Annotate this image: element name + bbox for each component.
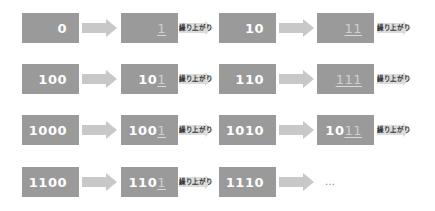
number-value: 110 [235, 72, 264, 87]
continuation-ellipsis: … [325, 167, 336, 197]
unchanged-digits: 10 [138, 72, 157, 87]
right-arrow-icon [279, 121, 314, 139]
right-arrow-icon [279, 70, 314, 88]
row-2: 100 101 繰り上がり 110 111 繰り上がり [0, 64, 435, 94]
number-box: 110 [219, 64, 276, 94]
carry-arrow: 繰り上がり [377, 21, 411, 35]
number-box: 1100 [22, 167, 79, 197]
carry-arrow: 繰り上がり [179, 175, 213, 189]
number-box-incremented: 101 [121, 64, 178, 94]
changed-digits: 11 [344, 21, 362, 36]
number-box-incremented: 1 [121, 13, 178, 43]
changed-digits: 1 [157, 21, 166, 36]
unchanged-digits: 110 [129, 175, 158, 190]
number-value: 100 [38, 72, 67, 87]
number-box: 1000 [22, 115, 79, 145]
changed-digits: 1 [157, 175, 166, 190]
number-box-incremented: 111 [317, 64, 374, 94]
right-arrow-icon [279, 173, 314, 191]
right-arrow-icon [82, 19, 117, 37]
carry-arrow: 繰り上がり [179, 72, 213, 86]
right-arrow-icon [82, 121, 117, 139]
carry-arrow: 繰り上がり [179, 21, 213, 35]
number-value: 1000 [29, 123, 67, 138]
number-value: 1010 [226, 123, 264, 138]
row-3: 1000 1001 繰り上がり 1010 1011 繰り上がり [0, 115, 435, 145]
number-box: 0 [22, 13, 79, 43]
carry-label: 繰り上がり [377, 21, 411, 35]
unchanged-digits: 10 [325, 123, 344, 138]
number-value: 1110 [226, 175, 264, 190]
carry-label: 繰り上がり [179, 72, 213, 86]
right-arrow-icon [279, 19, 314, 37]
carry-label: 繰り上がり [377, 72, 411, 86]
number-box: 10 [219, 13, 276, 43]
right-arrow-icon [82, 70, 117, 88]
number-value: 0 [57, 21, 67, 36]
number-box-incremented: 1001 [121, 115, 178, 145]
number-box-incremented: 1101 [121, 167, 178, 197]
number-value: 1100 [29, 175, 67, 190]
carry-label: 繰り上がり [179, 175, 213, 189]
changed-digits: 111 [336, 72, 362, 87]
carry-label: 繰り上がり [179, 21, 213, 35]
carry-label: 繰り上がり [179, 123, 213, 137]
carry-label: 繰り上がり [377, 123, 411, 137]
changed-digits: 1 [157, 72, 166, 87]
changed-digits: 11 [344, 123, 362, 138]
row-1: 0 1 繰り上がり 10 11 繰り上がり [0, 13, 435, 43]
carry-arrow: 繰り上がり [377, 72, 411, 86]
number-box: 1010 [219, 115, 276, 145]
unchanged-digits: 100 [129, 123, 158, 138]
number-value: 10 [245, 21, 264, 36]
changed-digits: 1 [157, 123, 166, 138]
number-box: 100 [22, 64, 79, 94]
row-4: 1100 1101 繰り上がり 1110 … [0, 167, 435, 197]
carry-arrow: 繰り上がり [377, 123, 411, 137]
number-box-incremented: 11 [317, 13, 374, 43]
number-box-incremented: 1011 [317, 115, 374, 145]
number-box: 1110 [219, 167, 276, 197]
right-arrow-icon [82, 173, 117, 191]
carry-arrow: 繰り上がり [179, 123, 213, 137]
